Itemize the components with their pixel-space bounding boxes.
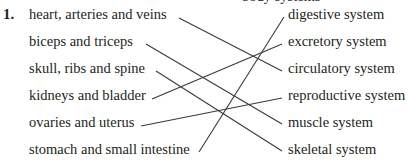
match-line-stomach-digestive [199, 17, 284, 152]
matching-lines [0, 0, 415, 162]
match-line-kidneys-excretory [152, 44, 282, 99]
